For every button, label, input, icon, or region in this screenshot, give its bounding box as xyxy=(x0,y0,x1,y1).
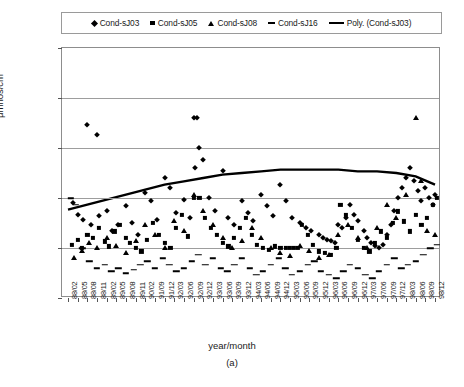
data-point-cond-sj16 xyxy=(130,269,136,271)
x-tick-label: 89/08 xyxy=(128,282,137,300)
x-tick-label: 92/09 xyxy=(196,282,205,300)
data-point-cond-sj16 xyxy=(108,271,114,273)
legend-item-cond-sj08[interactable]: Cond-sJ08 xyxy=(208,18,257,28)
data-point-cond-sj16 xyxy=(384,264,390,266)
data-point-cond-sj16 xyxy=(94,267,100,269)
gridline xyxy=(62,198,439,199)
x-tick-label: 95/06 xyxy=(302,282,311,300)
data-point-cond-sj16 xyxy=(166,264,172,266)
data-point-cond-sj05 xyxy=(186,234,190,238)
x-tick-label: 98/09 xyxy=(427,282,436,300)
data-point-cond-sj05 xyxy=(344,213,348,217)
data-point-cond-sj05 xyxy=(435,196,439,200)
x-tick-label: 95/09 xyxy=(311,282,320,300)
data-point-cond-sj05 xyxy=(385,236,389,240)
legend-item-cond-sj03[interactable]: Cond-sJ03 xyxy=(92,18,140,28)
x-tick-label: 92/06 xyxy=(186,282,195,300)
data-point-cond-sj05 xyxy=(151,221,155,225)
data-point-cond-sj08 xyxy=(258,235,264,240)
legend-item-cond-sj16[interactable]: Cond-sJ16 xyxy=(268,18,318,28)
x-tick-label: 94/09 xyxy=(273,282,282,300)
data-point-cond-sj16 xyxy=(101,264,107,266)
data-point-cond-sj16 xyxy=(391,257,397,259)
data-point-cond-sj16 xyxy=(231,264,237,266)
data-point-cond-sj08 xyxy=(94,245,100,250)
y-axis-title: μmhos/cm xyxy=(0,74,5,118)
data-point-cond-sj05 xyxy=(70,243,74,247)
data-point-cond-sj05 xyxy=(249,233,253,237)
data-point-cond-sj05 xyxy=(255,243,259,247)
legend-label: Poly. (Cond-sJ03) xyxy=(347,18,412,28)
data-point-cond-sj08 xyxy=(171,218,177,223)
data-point-cond-sj05 xyxy=(134,246,138,250)
x-tick-label: 94/06 xyxy=(263,282,272,300)
data-point-cond-sj08 xyxy=(152,232,158,237)
data-point-cond-sj16 xyxy=(137,264,143,266)
data-point-cond-sj16 xyxy=(420,254,426,256)
x-tick-label: 89/02 xyxy=(109,282,118,300)
data-point-cond-sj16 xyxy=(347,264,353,266)
figure-caption: (a) xyxy=(0,357,464,368)
data-point-cond-sj16 xyxy=(253,274,259,276)
data-point-cond-sj05 xyxy=(112,229,116,233)
data-point-cond-sj16 xyxy=(289,274,295,276)
data-point-cond-sj16 xyxy=(268,264,274,266)
data-point-cond-sj08 xyxy=(355,235,361,240)
data-point-cond-sj08 xyxy=(200,208,206,213)
data-point-cond-sj05 xyxy=(145,238,149,242)
data-point-cond-sj05 xyxy=(174,226,178,230)
data-point-cond-sj08 xyxy=(432,232,438,237)
x-tick-label: 93/06 xyxy=(225,282,234,300)
data-point-cond-sj05 xyxy=(118,223,122,227)
data-point-cond-sj16 xyxy=(239,257,245,259)
data-point-cond-sj16 xyxy=(144,261,150,263)
data-point-cond-sj05 xyxy=(76,238,80,242)
plot-area xyxy=(61,47,440,297)
x-tick-label: 92/03 xyxy=(176,282,185,300)
data-point-cond-sj08 xyxy=(123,250,129,255)
trendline-path xyxy=(68,170,435,210)
data-point-cond-sj16 xyxy=(224,271,230,273)
data-point-cond-sj05 xyxy=(124,236,128,240)
data-point-cond-sj05 xyxy=(317,249,321,253)
data-point-cond-sj08 xyxy=(142,222,148,227)
data-point-cond-sj16 xyxy=(159,257,165,259)
data-point-cond-sj05 xyxy=(419,223,423,227)
data-point-cond-sj05 xyxy=(311,243,315,247)
data-point-cond-sj16 xyxy=(427,247,433,249)
data-point-cond-sj08 xyxy=(86,240,92,245)
data-point-cond-sj16 xyxy=(123,272,129,274)
data-point-cond-sj16 xyxy=(376,271,382,273)
data-point-cond-sj16 xyxy=(434,244,440,246)
data-point-cond-sj08 xyxy=(104,235,110,240)
data-point-cond-sj08 xyxy=(181,228,187,233)
y-tick-mark xyxy=(58,48,62,49)
data-point-cond-sj08 xyxy=(384,202,390,207)
data-point-cond-sj05 xyxy=(373,241,377,245)
data-point-cond-sj16 xyxy=(405,264,411,266)
x-tick-label: 98/06 xyxy=(418,282,427,300)
data-point-cond-sj05 xyxy=(390,221,394,225)
data-point-cond-sj08 xyxy=(413,115,419,120)
data-point-cond-sj05 xyxy=(431,203,435,207)
data-point-cond-sj05 xyxy=(300,223,304,227)
data-point-cond-sj05 xyxy=(128,241,132,245)
y-tick-mark xyxy=(58,248,62,249)
data-point-cond-sj08 xyxy=(79,248,85,253)
legend-item-cond-sj05[interactable]: Cond-sJ05 xyxy=(150,18,197,28)
data-point-cond-sj05 xyxy=(334,246,338,250)
chart-legend: Cond-sJ03Cond-sJ05Cond-sJ08Cond-sJ16Poly… xyxy=(61,12,442,34)
data-point-cond-sj16 xyxy=(217,267,223,269)
x-axis-title: year/month xyxy=(0,340,464,351)
x-tick-label: 93/09 xyxy=(234,282,243,300)
data-point-cond-sj16 xyxy=(115,267,121,269)
diamond-marker-icon xyxy=(91,19,98,26)
triangle-marker-icon xyxy=(208,21,214,26)
data-point-cond-sj16 xyxy=(412,261,418,263)
x-tick-label: 95/12 xyxy=(321,282,330,300)
data-point-cond-sj05 xyxy=(396,209,400,213)
x-tick-label: 90/02 xyxy=(147,282,156,300)
data-point-cond-sj16 xyxy=(68,197,74,199)
data-point-cond-sj08 xyxy=(403,192,409,197)
legend-item-poly-cond-sj03[interactable]: Poly. (Cond-sJ03) xyxy=(329,18,412,28)
